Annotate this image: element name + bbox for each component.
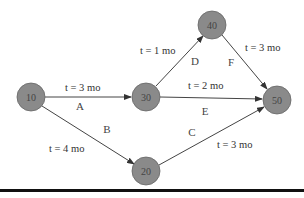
node-30: 30 bbox=[132, 83, 160, 111]
node-20: 20 bbox=[132, 157, 160, 185]
node-label: 40 bbox=[207, 20, 217, 31]
node-40: 40 bbox=[198, 11, 226, 39]
edge-B bbox=[42, 106, 134, 164]
node-50: 50 bbox=[263, 86, 291, 114]
bottom-rule bbox=[0, 189, 304, 192]
activity-label-B: B bbox=[103, 123, 110, 135]
activity-label-C: C bbox=[188, 126, 195, 138]
activity-label-E: E bbox=[202, 105, 209, 117]
network-diagram: 10 30 40 50 20 t = 3 mo t = 4 mo t = 3 m… bbox=[0, 0, 304, 198]
activity-label-F: F bbox=[228, 56, 234, 68]
time-label-B: t = 4 mo bbox=[49, 143, 84, 154]
activity-label-A: A bbox=[76, 100, 84, 112]
edge-E bbox=[160, 97, 262, 99]
time-label-C: t = 3 mo bbox=[217, 139, 252, 150]
activity-label-D: D bbox=[191, 55, 199, 67]
node-label: 50 bbox=[272, 95, 282, 106]
time-label-D: t = 1 mo bbox=[140, 45, 175, 56]
node-10: 10 bbox=[17, 83, 45, 111]
time-label-A: t = 3 mo bbox=[65, 82, 100, 93]
edge-C bbox=[159, 107, 264, 165]
node-label: 20 bbox=[141, 166, 151, 177]
time-label-E: t = 2 mo bbox=[188, 80, 223, 91]
node-label: 30 bbox=[141, 92, 151, 103]
node-label: 10 bbox=[26, 92, 36, 103]
time-label-F: t = 3 mo bbox=[245, 42, 280, 53]
